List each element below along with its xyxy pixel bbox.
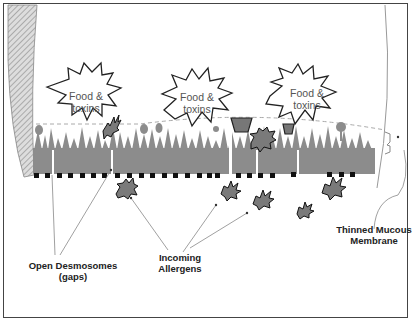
label-open-desmosomes: Open Desmosomes (gaps) — [18, 260, 128, 282]
burst-1-line1: Food & — [66, 90, 106, 102]
allergen-1 — [103, 115, 121, 139]
burst-2-line2: toxins — [177, 103, 217, 115]
burst-1-text: Food & toxins — [66, 90, 106, 114]
label-allergens-line2: Allergens — [150, 263, 210, 274]
label-allergens-line1: Incoming — [150, 252, 210, 263]
label-mucous-line2: Membrane — [336, 235, 412, 246]
allergen-6 — [297, 202, 314, 219]
burst-3-text: Food & toxins — [287, 87, 327, 111]
hatched-tissue-wall — [8, 5, 37, 177]
mucous-boundary-line — [377, 5, 388, 188]
burst-2-text: Food & toxins — [177, 91, 217, 115]
label-incoming-allergens: Incoming Allergens — [150, 252, 210, 274]
burst-3-line1: Food & — [287, 87, 327, 99]
allergen-3 — [116, 178, 138, 199]
allergen-4 — [221, 181, 241, 201]
allergen-7 — [322, 177, 346, 200]
allergen-5 — [253, 190, 274, 210]
label-thinned-mucous: Thinned Mucous Membrane — [336, 224, 412, 246]
epithelial-cell-layer — [33, 126, 375, 174]
burst-1-line2: toxins — [66, 102, 106, 114]
burst-2-line1: Food & — [177, 91, 217, 103]
label-mucous-line1: Thinned Mucous — [336, 224, 412, 235]
mucous-bracket — [385, 132, 390, 154]
burst-3-line2: toxins — [287, 99, 327, 111]
